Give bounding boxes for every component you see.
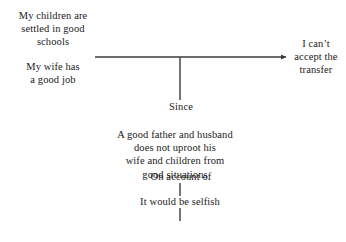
connector-label-since: Since: [150, 100, 212, 113]
argument-diagram: My children are settled in good schools …: [0, 0, 346, 242]
node-backing: It would be selfish: [130, 195, 230, 208]
connector-label-on-account-of: On account of: [140, 170, 222, 183]
node-reason-wife: My wife has a good job: [4, 60, 102, 86]
node-reason-children: My children are settled in good schools: [4, 9, 102, 49]
node-conclusion: I can’t accept the transfer: [287, 37, 345, 77]
